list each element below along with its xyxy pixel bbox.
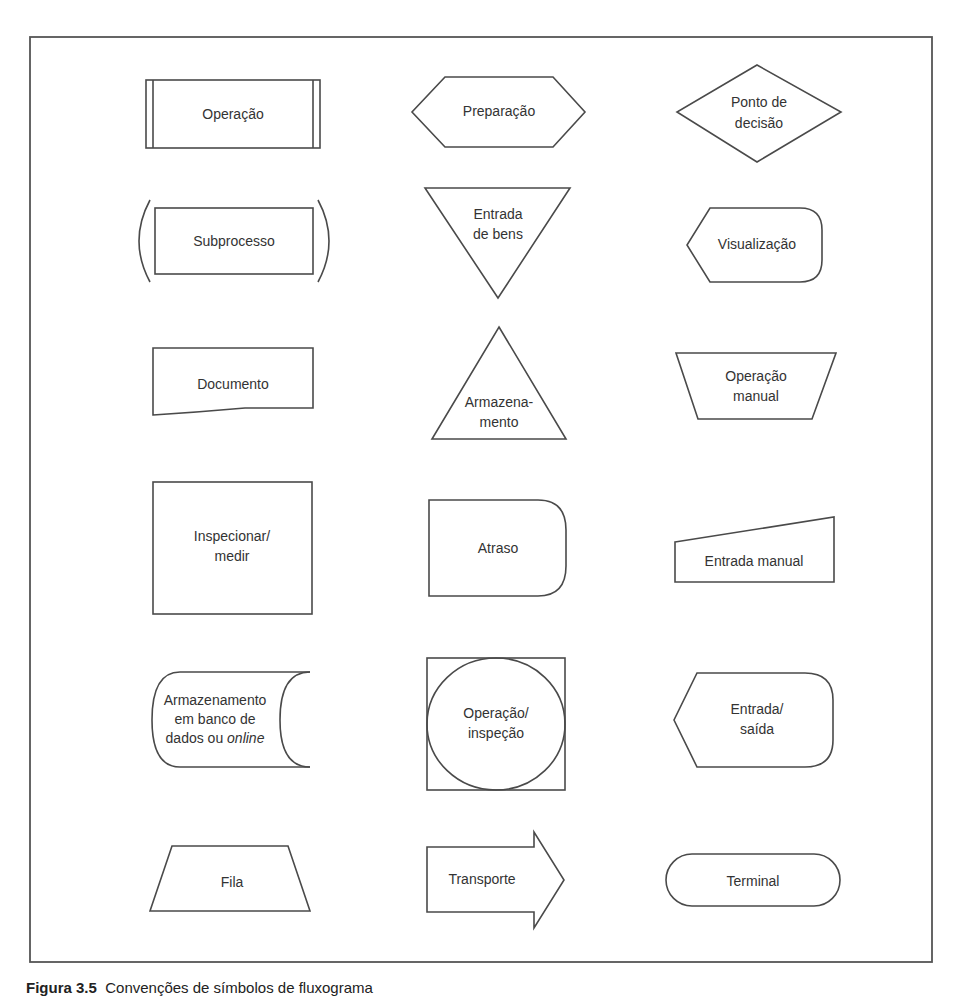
label-plain: dados ou [166, 730, 228, 746]
symbol-armazenamento-db: Armazenamento em banco de dados ou onlin… [152, 672, 310, 767]
symbol-label: Atraso [478, 540, 519, 556]
symbol-label-line3: dados ou online [166, 730, 265, 746]
symbol-subprocesso: Subprocesso [139, 200, 329, 282]
symbol-label-line2: inspeção [468, 725, 524, 741]
symbol-documento: Documento [153, 348, 313, 415]
figure-caption: Figura 3.5 Convenções de símbolos de flu… [26, 979, 373, 996]
symbol-label: Subprocesso [193, 233, 275, 249]
symbol-label-line1: Operação [725, 368, 787, 384]
diamond-shape [677, 65, 841, 162]
symbol-label-line1: Entrada/ [731, 701, 784, 717]
symbol-label-line1: Entrada [473, 206, 522, 222]
symbol-label-line2: manual [733, 388, 779, 404]
symbol-preparacao: Preparação [412, 77, 585, 147]
caption-label: Figura 3.5 [26, 979, 97, 996]
symbol-operacao-manual: Operação manual [676, 353, 836, 419]
symbol-ponto-decisao: Ponto de decisão [677, 65, 841, 162]
right-parenthesis [318, 200, 329, 282]
manual-input-shape [675, 517, 834, 582]
symbol-visualizacao: Visualização [687, 208, 822, 282]
symbol-label-line1: Inspecionar/ [194, 528, 270, 544]
symbol-label-line1: Armazenamento [164, 692, 267, 708]
trapezoid-shape [676, 353, 836, 419]
symbol-label: Operação [202, 106, 264, 122]
symbol-label-line2: mento [480, 414, 519, 430]
left-parenthesis [139, 200, 150, 282]
symbol-fila: Fila [150, 846, 310, 911]
symbol-label: Terminal [727, 873, 780, 889]
symbol-label: Fila [221, 874, 244, 890]
inverted-triangle-shape [425, 188, 570, 298]
symbol-transporte: Transporte [427, 832, 564, 928]
symbol-entrada-saida: Entrada/ saída [674, 673, 833, 767]
symbol-label-line2: decisão [735, 115, 783, 131]
symbol-operacao-inspecao: Operação/ inspeção [427, 658, 565, 790]
symbol-entrada-manual: Entrada manual [675, 517, 834, 582]
label-italic: online [227, 730, 265, 746]
symbol-label: Preparação [463, 103, 536, 119]
symbol-operacao: Operação [146, 80, 320, 148]
symbol-label: Entrada manual [705, 553, 804, 569]
symbol-label-line1: Operação/ [463, 705, 528, 721]
symbol-inspecionar: Inspecionar/ medir [153, 482, 312, 614]
symbol-label: Visualização [718, 236, 797, 252]
symbol-label: Documento [197, 376, 269, 392]
symbol-label-line2: saída [740, 721, 774, 737]
symbol-label-line2: em banco de [175, 711, 256, 727]
caption-text: Convenções de símbolos de fluxograma [105, 979, 373, 996]
symbol-entrada-bens: Entrada de bens [425, 188, 570, 298]
symbol-label-line2: medir [214, 548, 249, 564]
symbol-terminal: Terminal [666, 854, 840, 906]
symbol-label-line2: de bens [473, 226, 523, 242]
symbol-label: Transporte [448, 871, 515, 887]
symbol-atraso: Atraso [429, 500, 566, 596]
symbol-label-line1: Ponto de [731, 94, 787, 110]
symbol-label-line1: Armazena- [465, 394, 534, 410]
symbol-armazenamento: Armazena- mento [432, 327, 566, 439]
